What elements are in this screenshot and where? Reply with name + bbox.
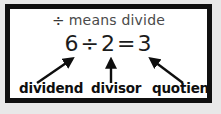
label-quotient: quotient xyxy=(152,80,212,96)
equation-divisor: 2 xyxy=(101,31,116,56)
equation-division-sign: ÷ xyxy=(81,31,100,56)
division-sign-icon: ÷ xyxy=(52,12,65,30)
title-text: means divide xyxy=(69,12,165,28)
title-line: ÷means divide xyxy=(10,12,207,30)
equation-line: 6÷2=3 xyxy=(10,31,207,56)
label-dividend: dividend xyxy=(19,80,83,96)
diagram-inner: ÷means divide 6÷2=3 dividend divisor quo… xyxy=(10,9,207,98)
division-terms-diagram: ÷means divide 6÷2=3 dividend divisor quo… xyxy=(5,4,212,103)
equation-equals-sign: = xyxy=(117,31,136,56)
term-label-row: dividend divisor quotient xyxy=(10,76,207,96)
equation-dividend: 6 xyxy=(65,31,80,56)
label-divisor: divisor xyxy=(91,80,141,96)
equation-quotient: 3 xyxy=(137,31,152,56)
